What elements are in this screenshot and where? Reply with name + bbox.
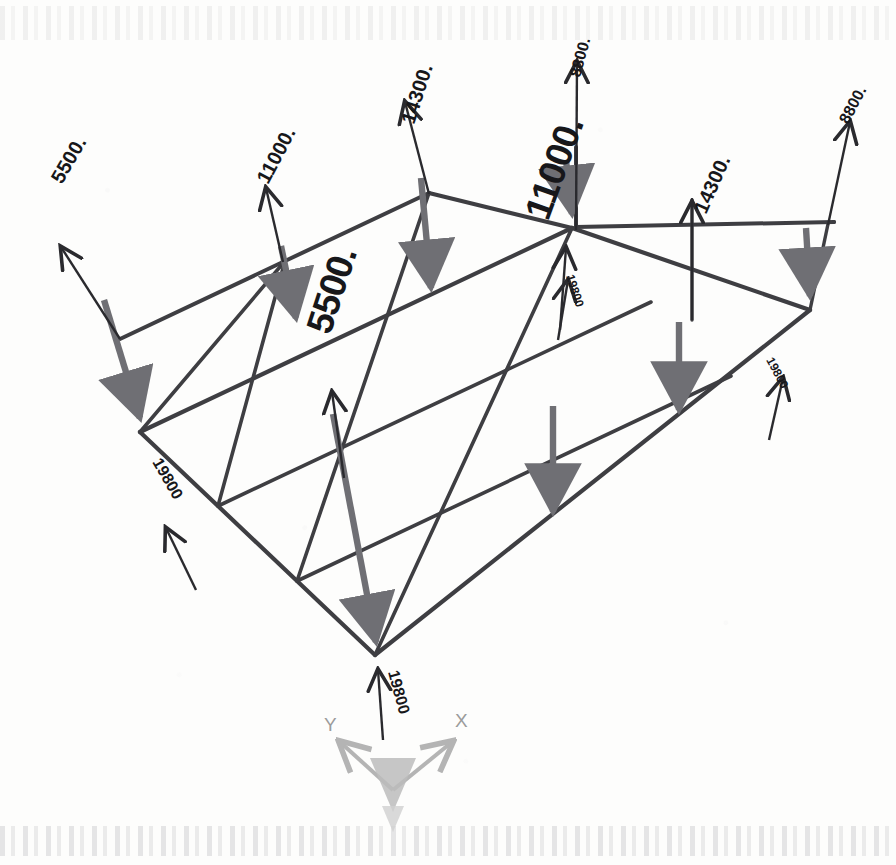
load-label-14300-top: 14300.	[397, 61, 437, 126]
frame-transverse-beams	[218, 193, 810, 655]
load-arrow-8800-topright	[828, 122, 850, 225]
x-axis-label: X	[455, 710, 468, 731]
load-arrow-11000-topleft	[266, 188, 283, 262]
load-label-8800-topcenter: 8800.	[566, 36, 593, 79]
load-arrow-19800-left	[166, 528, 196, 590]
load-label-group: 5500.11000.14300.8800.8800.14300.11000.5…	[46, 36, 869, 716]
structure-svg: 5500.11000.14300.8800.8800.14300.11000.5…	[0, 0, 896, 865]
frame-grid-beams	[140, 193, 731, 655]
right-bracket	[810, 224, 828, 310]
load-label-5500-center: 5500.	[299, 242, 365, 338]
load-label-19800-left: 19800	[149, 455, 186, 502]
load-arrow-19800-bottom	[378, 670, 383, 740]
reaction-arrow-right	[806, 228, 810, 296]
z-axis-cone	[370, 758, 416, 812]
load-label-19800-bottom: 19800	[385, 668, 413, 715]
load-label-11000-center: 11000.	[517, 112, 591, 225]
load-label-19800-right: 19800	[763, 355, 791, 391]
load-label-11000-topleft: 11000.	[252, 124, 300, 187]
diagram-canvas: 5500.11000.14300.8800.8800.14300.11000.5…	[0, 0, 896, 865]
load-label-14300-right: 14300.	[690, 152, 735, 217]
z-axis-cone-tip	[382, 806, 404, 832]
load-arrow-5500-left	[61, 247, 120, 339]
load-label-5500-left: 5500.	[46, 133, 90, 187]
reaction-arrow-left	[104, 300, 140, 418]
y-axis-label: Y	[324, 714, 337, 735]
load-label-8800-topright: 8800.	[836, 83, 870, 126]
axis-triad: Y X	[324, 710, 468, 832]
